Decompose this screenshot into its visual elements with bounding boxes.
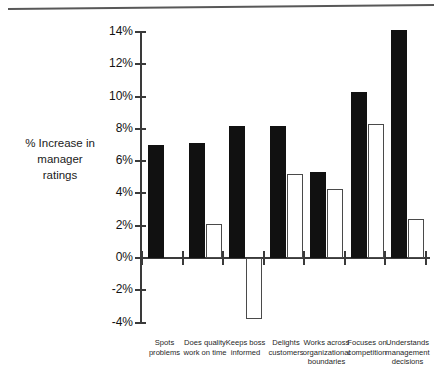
category-label-6: Understandsmanagementdecisions bbox=[382, 338, 434, 367]
bar-black-1 bbox=[189, 143, 205, 258]
y-tick-mark bbox=[135, 160, 146, 162]
x-tick-mark-3 bbox=[263, 251, 265, 265]
y-tick-label: -4% bbox=[112, 315, 133, 329]
x-tick-mark-1 bbox=[182, 251, 184, 265]
category-label-line: management bbox=[382, 348, 434, 358]
bar-white-6 bbox=[408, 219, 424, 258]
y-axis-title: % Increase inmanagerratings bbox=[6, 135, 114, 183]
x-tick-mark-6 bbox=[384, 251, 386, 265]
plot-area: -4%-2%0%2%4%6%8%10%12%14% bbox=[140, 28, 432, 324]
category-label-line: Understands bbox=[382, 338, 434, 348]
bar-white-3 bbox=[287, 174, 303, 258]
y-axis-title-line-2: ratings bbox=[6, 167, 114, 183]
category-label-line: boundaries bbox=[301, 357, 353, 367]
y-tick-label: 10% bbox=[109, 89, 133, 103]
y-tick-mark bbox=[135, 96, 146, 98]
x-tick-mark-5 bbox=[344, 251, 346, 265]
bar-black-0 bbox=[148, 145, 164, 258]
y-axis-title-line-0: % Increase in bbox=[6, 135, 114, 151]
bar-black-6 bbox=[391, 30, 407, 258]
y-axis-spine bbox=[140, 32, 142, 323]
bar-white-1 bbox=[206, 224, 222, 258]
x-tick-mark-4 bbox=[303, 251, 305, 265]
bar-black-2 bbox=[229, 126, 245, 258]
y-tick-label: 8% bbox=[116, 121, 133, 135]
y-tick-label: 14% bbox=[109, 24, 133, 38]
y-tick-mark bbox=[135, 128, 146, 130]
y-tick-mark bbox=[135, 289, 146, 291]
y-tick-label: 2% bbox=[116, 218, 133, 232]
chart-figure: % Increase inmanagerratings -4%-2%0%2%4%… bbox=[0, 0, 442, 385]
y-tick-mark bbox=[135, 63, 146, 65]
y-axis-title-line-1: manager bbox=[6, 151, 114, 167]
bar-white-4 bbox=[327, 189, 343, 258]
x-tick-mark-2 bbox=[222, 251, 224, 265]
y-tick-label: 4% bbox=[116, 185, 133, 199]
y-tick-label: 12% bbox=[109, 56, 133, 70]
x-tick-mark-7 bbox=[425, 251, 427, 265]
y-tick-label: 6% bbox=[116, 153, 133, 167]
bar-black-3 bbox=[270, 126, 286, 258]
bar-black-4 bbox=[310, 172, 326, 258]
bar-white-2 bbox=[246, 258, 262, 319]
y-tick-mark bbox=[135, 322, 146, 324]
y-tick-mark bbox=[135, 192, 146, 194]
y-tick-mark bbox=[135, 31, 146, 33]
y-tick-label: 0% bbox=[116, 250, 133, 264]
bar-black-5 bbox=[351, 92, 367, 258]
x-tick-mark-0 bbox=[141, 251, 143, 265]
y-tick-label: -2% bbox=[112, 282, 133, 296]
y-tick-mark bbox=[135, 225, 146, 227]
top-divider-rule bbox=[8, 4, 434, 10]
category-label-line: decisions bbox=[382, 357, 434, 367]
bar-white-5 bbox=[368, 124, 384, 258]
